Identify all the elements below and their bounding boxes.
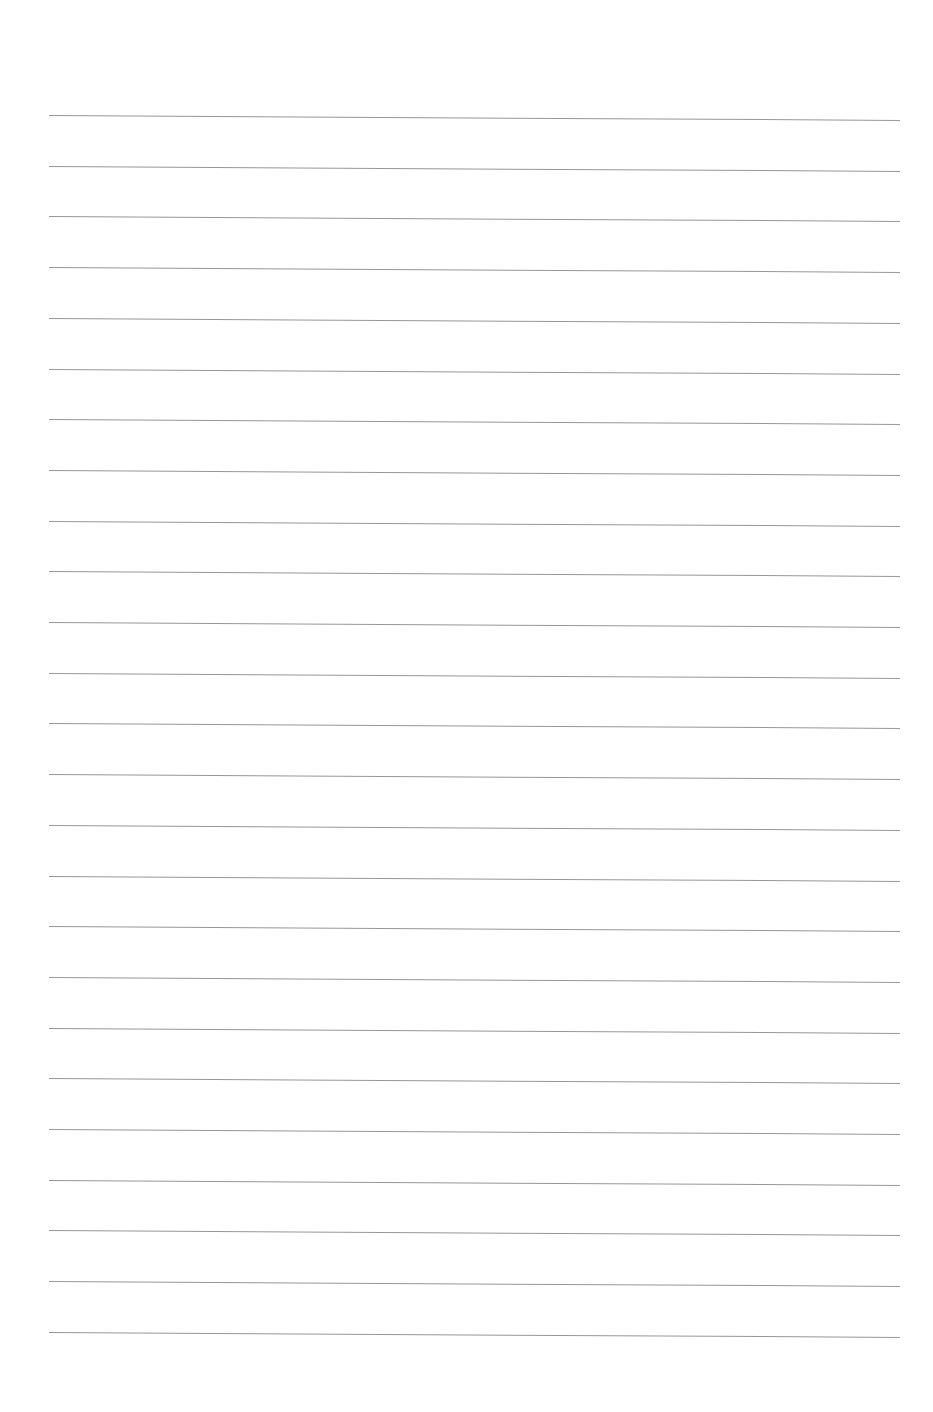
ruled-line [49,1078,900,1084]
ruled-line [49,470,900,476]
ruled-line [49,521,900,527]
ruled-line [49,825,900,831]
ruled-line [49,926,900,932]
ruled-line [49,622,900,628]
ruled-line [49,419,900,425]
ruled-line [49,115,900,121]
lined-paper-page [0,0,933,1412]
ruled-line [49,673,900,679]
ruled-line [49,571,900,577]
ruled-line [49,977,900,983]
ruled-line [49,267,900,273]
ruled-line [49,318,900,324]
ruled-line [49,166,900,172]
ruled-line [49,1281,900,1287]
ruled-line [49,1230,900,1236]
ruled-line [49,1129,900,1135]
ruled-line [49,876,900,882]
ruled-line [49,369,900,375]
ruled-line [49,1028,900,1034]
ruled-line [49,1180,900,1186]
ruled-line [49,216,900,222]
ruled-line [49,723,900,729]
ruled-line [49,774,900,780]
ruled-line [49,1332,900,1338]
